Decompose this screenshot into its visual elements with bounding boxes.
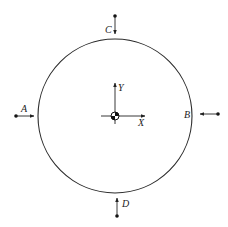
center-of-mass-icon	[111, 112, 119, 120]
label-B: B	[184, 109, 190, 120]
label-D: D	[121, 198, 130, 209]
label-A: A	[20, 103, 28, 114]
force-A: A	[14, 103, 34, 118]
force-B: B	[184, 109, 220, 120]
x-axis-label: X	[137, 117, 145, 128]
force-C: C	[105, 14, 117, 35]
diagram-canvas: Y X A B C D	[0, 0, 228, 227]
coordinate-axes: Y X	[101, 82, 145, 128]
label-C: C	[105, 24, 112, 35]
y-axis-label: Y	[118, 82, 125, 93]
force-D: D	[115, 198, 130, 218]
